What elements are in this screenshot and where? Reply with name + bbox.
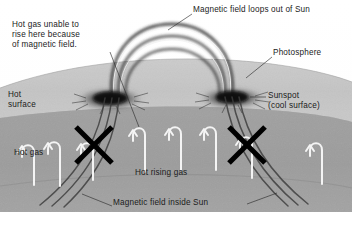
solar-interior-layer	[0, 100, 352, 215]
sunspot-left-umbra	[93, 92, 127, 105]
sun-magnetic-field-diagram: Magnetic field loops out of Sun Hot gas …	[0, 0, 352, 227]
diagram-canvas	[0, 0, 352, 227]
